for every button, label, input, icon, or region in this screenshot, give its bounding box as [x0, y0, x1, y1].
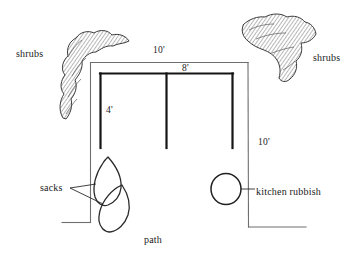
dimension-right-outer: 10': [258, 137, 270, 147]
garden-plan-diagram: shrubs shrubs 10' 8' 4' 10' sacks kitche…: [0, 0, 359, 267]
dimension-top-outer: 10': [153, 45, 165, 55]
sacks-leader-lines: [70, 184, 103, 204]
label-kitchen-rubbish: kitchen rubbish: [256, 186, 321, 197]
compost-bay-structure: [100, 74, 233, 149]
sack-upper: [94, 157, 121, 206]
dimension-top-inner: 8': [182, 63, 189, 73]
sack-lower: [99, 185, 129, 232]
plan-drawing: [0, 0, 359, 267]
shrub-clump-left: [60, 31, 129, 119]
dimension-bay-depth: 4': [106, 105, 113, 115]
rubbish-bin-circle: [211, 174, 241, 205]
label-shrubs-right: shrubs: [313, 52, 340, 63]
label-shrubs-left: shrubs: [16, 48, 43, 59]
label-path: path: [144, 234, 162, 245]
shrub-clump-right: [242, 14, 316, 82]
label-sacks: sacks: [40, 182, 63, 193]
